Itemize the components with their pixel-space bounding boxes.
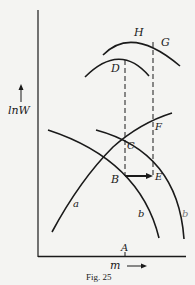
curve-b-prime bbox=[96, 130, 184, 239]
label-B: B bbox=[110, 173, 119, 186]
figure-caption: Fig. 25 bbox=[86, 272, 112, 282]
figure-25: H G D C F B E A a b b lnW m Fig. 25 bbox=[0, 0, 195, 285]
label-curve-b: b bbox=[138, 208, 144, 219]
y-axis-label: lnW bbox=[8, 104, 32, 117]
label-E: E bbox=[154, 171, 163, 182]
label-F: F bbox=[154, 121, 163, 132]
label-A: A bbox=[120, 242, 128, 253]
label-C: C bbox=[127, 140, 135, 151]
label-H: H bbox=[133, 26, 144, 39]
label-curve-a: a bbox=[73, 198, 79, 209]
label-D: D bbox=[110, 62, 120, 75]
label-curve-b-prime: b bbox=[182, 208, 188, 219]
curve-b bbox=[48, 130, 159, 238]
label-G: G bbox=[161, 36, 170, 49]
diagram-canvas: H G D C F B E A a b b lnW m Fig. 25 bbox=[0, 0, 195, 285]
x-axis-label: m bbox=[110, 259, 120, 272]
